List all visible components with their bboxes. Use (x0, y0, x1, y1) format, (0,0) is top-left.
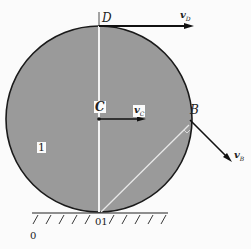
ground-origin-label: 0 (30, 231, 36, 241)
point-c-label: C (94, 101, 106, 113)
rolling-disk-diagram: D vD C vC B vB 1 01 0 (0, 0, 251, 249)
point-b-label: B (190, 104, 199, 116)
body-number-label: 1 (37, 142, 46, 153)
velocity-b-label: vB (234, 150, 244, 162)
velocity-b-arrow (190, 120, 232, 162)
velocity-d-label: vD (180, 10, 191, 22)
contact-point-label: 01 (94, 217, 109, 227)
diagram-graphics (0, 0, 251, 249)
velocity-c-label: vC (133, 105, 145, 117)
point-d-label: D (102, 12, 112, 24)
